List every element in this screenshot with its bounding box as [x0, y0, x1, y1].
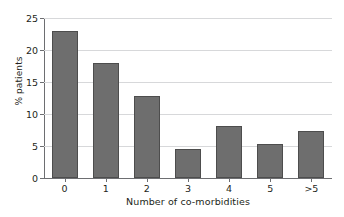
- x-tick-label: 3: [185, 183, 191, 194]
- bar: [298, 131, 324, 178]
- y-axis-title: % patients: [14, 36, 24, 126]
- x-axis-title: Number of co-morbidities: [44, 196, 332, 207]
- bar: [175, 149, 201, 178]
- bar: [52, 31, 78, 178]
- bar-series: [44, 18, 332, 178]
- bar-chart: % patients 0510152025 012345>5 Number of…: [0, 0, 344, 217]
- y-tick-mark: [40, 178, 44, 179]
- x-tick-mark: [188, 178, 189, 182]
- y-tick-label: 5: [32, 141, 38, 152]
- x-tick-mark: [147, 178, 148, 182]
- x-tick-mark: [229, 178, 230, 182]
- y-tick-label: 20: [26, 45, 38, 56]
- bar: [93, 63, 119, 178]
- bar: [134, 96, 160, 178]
- x-tick-label: 0: [62, 183, 68, 194]
- x-tick-mark: [106, 178, 107, 182]
- x-tick-label: 5: [267, 183, 273, 194]
- bar: [257, 144, 283, 178]
- y-tick-label: 0: [32, 173, 38, 184]
- x-tick-label: 4: [226, 183, 232, 194]
- y-tick-label: 10: [26, 109, 38, 120]
- bar: [216, 126, 242, 178]
- x-tick-label: 2: [144, 183, 150, 194]
- x-tick-label: 1: [103, 183, 109, 194]
- plot-area: 0510152025 012345>5: [44, 18, 332, 178]
- x-tick-label: >5: [304, 183, 318, 194]
- y-tick-label: 25: [26, 13, 38, 24]
- x-tick-mark: [270, 178, 271, 182]
- x-tick-mark: [65, 178, 66, 182]
- y-tick-label: 15: [26, 77, 38, 88]
- x-tick-mark: [311, 178, 312, 182]
